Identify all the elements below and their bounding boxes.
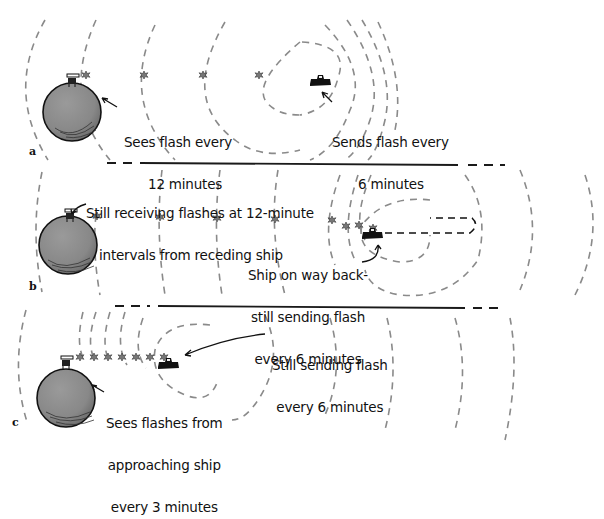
caption-line: Still sending flash xyxy=(272,358,388,372)
caption-line: Sees flashes from xyxy=(106,416,223,430)
spaceship-icon xyxy=(310,75,331,86)
spaceship-icon xyxy=(362,228,383,239)
ship-return-path xyxy=(385,218,476,233)
flash-burst-icon xyxy=(132,353,140,361)
flash-burst-icon xyxy=(146,353,154,361)
panel-label-c: c xyxy=(12,416,19,429)
caption-observer-c: Sees flashes from approaching ship every… xyxy=(106,388,223,519)
planet-a xyxy=(43,83,101,141)
flash-burst-icon xyxy=(118,353,126,361)
caption-line: Sees flash every xyxy=(124,135,232,149)
panel-label-a: a xyxy=(29,145,36,158)
caption-line: Sends flash every xyxy=(332,135,449,149)
arrow-observer-a xyxy=(102,98,117,107)
spaceship-icon xyxy=(158,358,179,369)
flash-burst-icon xyxy=(82,71,90,79)
flashes-a xyxy=(82,71,263,79)
caption-line: Ship on way back- xyxy=(248,268,368,282)
caption-line: still sending flash xyxy=(248,310,368,324)
flash-burst-icon xyxy=(90,353,98,361)
caption-ship-c: Still sending flash every 6 minutes xyxy=(272,330,388,428)
caption-ship-a: Sends flash every 6 minutes xyxy=(332,107,449,205)
planet-c xyxy=(37,369,95,427)
flash-burst-icon xyxy=(255,71,263,79)
caption-line: Still receiving flashes at 12-minute xyxy=(86,206,314,220)
caption-line: approaching ship xyxy=(106,458,223,472)
caption-line: every 6 minutes xyxy=(272,400,388,414)
caption-line: 6 minutes xyxy=(332,177,449,191)
panel-label-b: b xyxy=(29,280,37,293)
caption-line: every 3 minutes xyxy=(106,500,223,514)
flash-burst-icon xyxy=(104,353,112,361)
telescope-observer-icon xyxy=(61,356,73,369)
